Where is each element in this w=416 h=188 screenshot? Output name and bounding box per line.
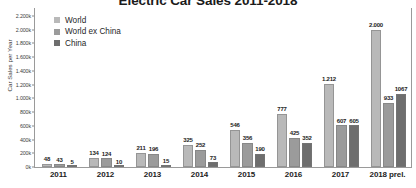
bar-slot: 43 — [54, 9, 65, 167]
bar-slot: 607 — [336, 9, 347, 167]
bar[interactable] — [42, 164, 53, 167]
bar-value-label: 2.000 — [369, 22, 383, 28]
y-axis-tick: 1.800k — [16, 40, 31, 46]
bar[interactable] — [383, 103, 394, 167]
y-axis-tick: 800k — [20, 109, 31, 115]
bar-value-label: 607 — [337, 118, 346, 124]
bar-value-label: 190 — [255, 146, 264, 152]
bar-value-label: 10 — [116, 159, 122, 165]
bar[interactable] — [371, 30, 382, 167]
bar-slot: 546 — [230, 9, 241, 167]
bar[interactable] — [302, 143, 313, 167]
x-axis-tick-labels: 20112012201320142015201620172018 prel. — [34, 170, 412, 186]
bar-slot: 777 — [277, 9, 288, 167]
y-axis-tick: 1.000k — [16, 95, 31, 101]
bar-slot: 933 — [383, 9, 394, 167]
bar-group: 1.212607605 — [324, 9, 360, 167]
bar-slot: 325 — [183, 9, 194, 167]
bar[interactable] — [136, 153, 147, 167]
bar-slot: 356 — [242, 9, 253, 167]
bar-value-label: 1067 — [395, 86, 408, 92]
chart-title: Electric Car Sales 2011-2018 — [0, 0, 416, 8]
bar-group: 32525273 — [183, 9, 219, 167]
electric-car-sales-chart: Electric Car Sales 2011-2018 Car Sales p… — [0, 0, 416, 188]
bar-slot: 196 — [148, 9, 159, 167]
y-axis-tick: 400k — [20, 137, 31, 143]
y-axis-tick: 200k — [20, 150, 31, 156]
bar-value-label: 124 — [102, 151, 111, 157]
bar-slot: 73 — [208, 9, 219, 167]
bar-slot: 124 — [101, 9, 112, 167]
bar[interactable] — [67, 165, 78, 167]
bar[interactable] — [195, 150, 206, 167]
bar-slot: 425 — [289, 9, 300, 167]
bar-slot: 10 — [114, 9, 125, 167]
bar[interactable] — [183, 145, 194, 167]
y-axis-tick: 2.000k — [16, 27, 31, 33]
bar[interactable] — [277, 114, 288, 167]
bar[interactable] — [336, 125, 347, 167]
bar-group: 546356190 — [230, 9, 266, 167]
bar-value-label: 777 — [277, 106, 286, 112]
bar-slot: 5 — [67, 9, 78, 167]
y-axis-tick: 1.400k — [16, 68, 31, 74]
bar-group: 777425352 — [277, 9, 313, 167]
bar-value-label: 134 — [89, 150, 98, 156]
bar-slot: 134 — [89, 9, 100, 167]
bar-slot: 211 — [136, 9, 147, 167]
bar-value-label: 1.212 — [322, 76, 336, 82]
bar-slot: 2.000 — [371, 9, 382, 167]
x-axis-tick: 2018 prel. — [370, 170, 406, 179]
bar[interactable] — [148, 154, 159, 167]
bar-slot: 1.212 — [324, 9, 335, 167]
bar[interactable] — [161, 165, 172, 167]
y-axis-tick: 0k — [26, 164, 31, 170]
y-axis-tick: 2.200k — [16, 13, 31, 19]
bar-slot: 605 — [349, 9, 360, 167]
bar-value-label: 43 — [56, 157, 62, 163]
bar[interactable] — [324, 84, 335, 167]
bar-value-label: 252 — [196, 142, 205, 148]
bar[interactable] — [242, 143, 253, 167]
bar-group: 2.0009331067 — [371, 9, 407, 167]
y-axis-tick: 1.600k — [16, 54, 31, 60]
x-axis-tick: 2017 — [332, 170, 349, 179]
bar-value-label: 356 — [243, 135, 252, 141]
bar-group: 21119615 — [136, 9, 172, 167]
bar-group: 48435 — [42, 9, 78, 167]
bar[interactable] — [396, 94, 407, 167]
bar-slot: 15 — [161, 9, 172, 167]
bar-slot: 352 — [302, 9, 313, 167]
bar-value-label: 211 — [136, 145, 145, 151]
y-axis-tick-labels: 0k200k400k600k800k1.000k1.200k1.400k1.60… — [0, 8, 34, 168]
x-axis-tick: 2012 — [97, 170, 114, 179]
bar[interactable] — [101, 158, 112, 167]
x-axis-tick: 2011 — [50, 170, 67, 179]
bar-value-label: 196 — [149, 146, 158, 152]
bar-value-label: 933 — [384, 95, 393, 101]
bar-group: 13412410 — [89, 9, 125, 167]
bar[interactable] — [349, 125, 360, 167]
bar-value-label: 425 — [290, 130, 299, 136]
bar[interactable] — [230, 130, 241, 168]
bar[interactable] — [54, 164, 65, 167]
bar-value-label: 15 — [163, 158, 169, 164]
bar[interactable] — [89, 158, 100, 167]
x-axis-tick: 2014 — [191, 170, 208, 179]
y-axis-tick: 600k — [20, 123, 31, 129]
y-axis-tick: 1.200k — [16, 82, 31, 88]
bar-value-label: 352 — [302, 135, 311, 141]
x-axis-tick: 2016 — [285, 170, 302, 179]
bar-slot: 252 — [195, 9, 206, 167]
bar-value-label: 73 — [210, 155, 216, 161]
bar-slot: 1067 — [396, 9, 407, 167]
bar[interactable] — [208, 162, 219, 167]
bar[interactable] — [255, 154, 266, 167]
bars-layer: 4843513412410211196153252527354635619077… — [35, 9, 411, 167]
bar-value-label: 546 — [230, 122, 239, 128]
bar-value-label: 325 — [183, 137, 192, 143]
bar-slot: 48 — [42, 9, 53, 167]
bar-slot: 190 — [255, 9, 266, 167]
bar[interactable] — [114, 165, 125, 167]
bar[interactable] — [289, 138, 300, 167]
